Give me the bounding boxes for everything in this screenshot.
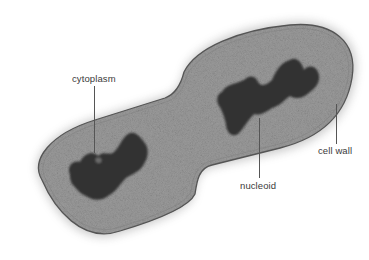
cell-illustration [0,0,369,260]
nucleoid-label: nucleoid [240,181,276,191]
diagram-stage: cytoplasm nucleoid cell wall [0,0,369,260]
cytoplasm-label: cytoplasm [72,74,116,84]
cell-wall-leader-line [336,104,337,144]
cytoplasm-leader-line [94,86,95,153]
cell-wall-label: cell wall [318,146,352,156]
nucleoid-leader-line [259,118,260,178]
